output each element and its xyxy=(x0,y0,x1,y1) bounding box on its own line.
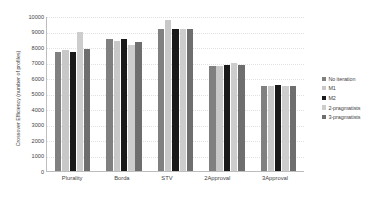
x-axis-label: 2Approval xyxy=(204,175,230,181)
bar-chart: Crossover Efficiency (number of profiles… xyxy=(0,0,388,197)
bar-group xyxy=(260,17,296,171)
x-axis-label: 3Approval xyxy=(262,175,288,181)
y-axis-tick-label: 7000 xyxy=(14,60,44,67)
legend-item[interactable]: M2 xyxy=(322,93,386,103)
bar-group xyxy=(106,17,142,171)
legend-label: M2 xyxy=(328,95,335,101)
bar xyxy=(209,66,215,171)
bar xyxy=(180,29,186,171)
bar xyxy=(62,50,68,171)
bar xyxy=(55,52,61,171)
y-axis-tick-label: 2000 xyxy=(14,138,44,145)
y-axis-tick-label: 10000 xyxy=(14,14,44,21)
bar xyxy=(187,29,193,171)
bar xyxy=(282,86,288,171)
bar xyxy=(231,63,237,172)
x-axis-label: Borda xyxy=(114,175,129,181)
plot-area xyxy=(46,17,304,172)
bar xyxy=(224,65,230,171)
bar xyxy=(135,42,141,171)
bar xyxy=(172,29,178,171)
bars-layer xyxy=(47,17,304,171)
legend-item[interactable]: 2-pragmatists xyxy=(322,103,386,113)
bar xyxy=(77,32,83,171)
y-axis-tick-label: 6000 xyxy=(14,76,44,83)
bar xyxy=(268,86,274,171)
y-axis-tick-label: 1000 xyxy=(14,153,44,160)
y-axis-tick-label: 5000 xyxy=(14,91,44,98)
legend-label: M1 xyxy=(328,85,335,91)
y-axis-tick-label: 4000 xyxy=(14,107,44,114)
chart-legend: No iterationM1M22-pragmatists3-pragmatis… xyxy=(322,74,386,122)
bar-group xyxy=(55,17,91,171)
bar xyxy=(216,66,222,171)
legend-swatch-icon xyxy=(322,115,326,119)
legend-label: 3-pragmatists xyxy=(328,114,360,120)
y-axis-tick-labels: 1000090008000700060005000400030002000100… xyxy=(14,13,44,173)
x-axis-category-labels: PluralityBordaSTV2Approval3Approval xyxy=(46,175,304,189)
y-axis-tick-label: 9000 xyxy=(14,29,44,36)
legend-swatch-icon xyxy=(322,96,326,100)
y-axis-tick-label: 8000 xyxy=(14,45,44,52)
legend-swatch-icon xyxy=(322,86,326,90)
legend-item[interactable]: M1 xyxy=(322,84,386,94)
y-axis-tick-label: 3000 xyxy=(14,122,44,129)
bar xyxy=(261,86,267,171)
bar xyxy=(84,49,90,171)
bar xyxy=(238,65,244,171)
bar xyxy=(114,41,120,171)
bar-group xyxy=(209,17,245,171)
bar-group xyxy=(157,17,193,171)
x-axis-label: STV xyxy=(161,175,172,181)
bar xyxy=(158,29,164,171)
bar xyxy=(165,20,171,171)
bar xyxy=(106,39,112,171)
legend-swatch-icon xyxy=(322,77,326,81)
bar xyxy=(275,85,281,171)
bar xyxy=(121,39,127,171)
legend-label: 2-pragmatists xyxy=(328,105,360,111)
bar xyxy=(70,52,76,171)
legend-item[interactable]: 3-pragmatists xyxy=(322,112,386,122)
bar xyxy=(290,86,296,171)
legend-swatch-icon xyxy=(322,105,326,109)
y-axis-tick-label: 0 xyxy=(14,169,44,176)
x-axis-label: Plurality xyxy=(62,175,83,181)
legend-label: No iteration xyxy=(328,76,355,82)
legend-item[interactable]: No iteration xyxy=(322,74,386,84)
bar xyxy=(128,45,134,171)
